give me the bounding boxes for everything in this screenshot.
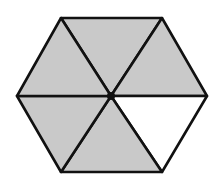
center-dot — [107, 92, 115, 100]
hexagon-diagram — [0, 0, 220, 177]
